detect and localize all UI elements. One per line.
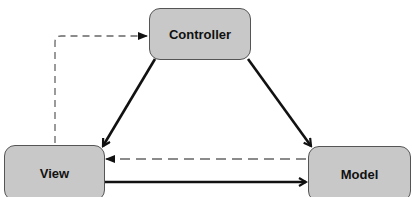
controller-label: Controller (169, 27, 231, 42)
model-node: Model (308, 146, 411, 197)
edge-controller-to-model (248, 59, 311, 146)
edge-controller-to-view (103, 59, 155, 146)
mvc-diagram: Controller View Model (0, 0, 412, 197)
view-label: View (40, 166, 69, 181)
model-label: Model (341, 167, 379, 182)
controller-node: Controller (149, 8, 251, 60)
view-node: View (4, 145, 105, 197)
edge-view-to-controller (55, 36, 147, 143)
